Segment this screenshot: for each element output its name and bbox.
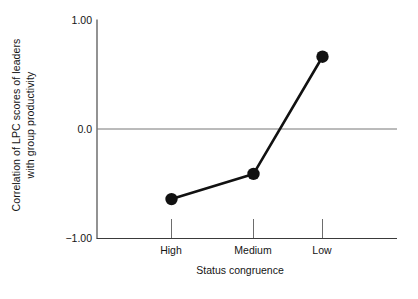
series-line-lpc-correlation bbox=[172, 57, 323, 199]
data-point-low bbox=[316, 51, 328, 63]
data-series-lpc-correlation bbox=[165, 51, 328, 206]
data-point-medium bbox=[247, 168, 259, 180]
plot-area bbox=[0, 0, 418, 299]
data-point-high bbox=[165, 193, 177, 205]
chart-figure: Correlation of LPC scores of leaders wit… bbox=[0, 0, 418, 299]
